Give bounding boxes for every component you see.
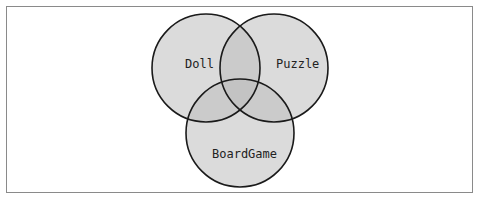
venn-diagram: Doll Puzzle BoardGame <box>0 0 480 198</box>
label-doll: Doll <box>185 57 214 71</box>
label-puzzle: Puzzle <box>276 57 319 71</box>
label-boardgame: BoardGame <box>212 147 277 161</box>
